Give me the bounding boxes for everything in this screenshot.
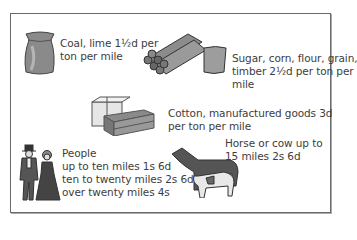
horse-rate-line-1: Horse or cow up to [225,137,323,150]
cotton-rate-line-2: per ton per mile [168,120,332,133]
people-rate-line-3: over twenty miles 4s [62,186,194,199]
logs-and-sack-icon [140,28,232,76]
horse-rate-line-2: 15 miles 2s 6d [225,150,323,163]
bales-and-crate-icon [90,96,156,136]
people-rate-line-2: ten to twenty miles 2s 6d [62,173,194,186]
people-rate-heading: People [62,147,194,160]
cotton-rate-line-1: Cotton, manufactured goods 3d [168,107,332,120]
sugar-rate-line-3: mile [232,78,357,91]
people-rate-line-1: up to ten miles 1s 6d [62,160,194,173]
sack-icon [22,30,58,76]
sugar-rate-line-2: timber 2½d per ton per [232,65,357,78]
sugar-rate-line-1: Sugar, corn, flour, grain, [232,52,357,65]
victorian-couple-icon [16,144,62,204]
